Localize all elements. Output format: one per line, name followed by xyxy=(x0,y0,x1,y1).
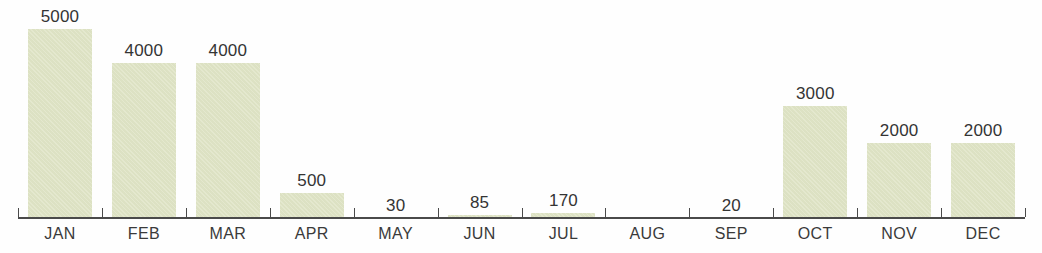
bar-value-label: 2000 xyxy=(880,122,919,139)
category-label-may: MAY xyxy=(354,224,438,250)
axis-tick xyxy=(18,208,19,217)
axis-tick xyxy=(605,208,606,217)
bar-group-feb: 4000 xyxy=(102,0,186,218)
bar-group-apr: 500 xyxy=(270,0,354,218)
category-label-apr: APR xyxy=(270,224,354,250)
category-label-jun: JUN xyxy=(438,224,522,250)
bar xyxy=(783,106,847,218)
bar-value-label: 4000 xyxy=(125,42,164,59)
category-label-dec: DEC xyxy=(941,224,1025,250)
axis-tick xyxy=(270,208,271,217)
bar-group-may: 30 xyxy=(354,0,438,218)
plot-area: 500040004000500308517020300020002000 xyxy=(18,0,1025,218)
axis-tick xyxy=(857,208,858,217)
axis-tick xyxy=(1025,208,1026,217)
bar xyxy=(951,143,1015,218)
axis-tick xyxy=(773,208,774,217)
x-axis-ticks xyxy=(18,208,1025,217)
bar-group-mar: 4000 xyxy=(186,0,270,218)
bar-group-nov: 2000 xyxy=(857,0,941,218)
bar-value-label: 170 xyxy=(549,192,578,209)
bar-chart: 500040004000500308517020300020002000 JAN… xyxy=(0,0,1042,253)
bar-value-label: 5000 xyxy=(41,8,80,25)
bar-group-sep: 20 xyxy=(689,0,773,218)
x-axis-line xyxy=(18,217,1025,219)
category-label-nov: NOV xyxy=(857,224,941,250)
bar-group-oct: 3000 xyxy=(773,0,857,218)
bar-value-label: 2000 xyxy=(964,122,1003,139)
bar xyxy=(28,29,92,218)
bar-group-jan: 5000 xyxy=(18,0,102,218)
category-label-sep: SEP xyxy=(689,224,773,250)
category-label-oct: OCT xyxy=(773,224,857,250)
category-labels: JANFEBMARAPRMAYJUNJULAUGSEPOCTNOVDEC xyxy=(18,224,1025,250)
bar-group-jun: 85 xyxy=(438,0,522,218)
axis-tick xyxy=(354,208,355,217)
bar-columns: 500040004000500308517020300020002000 xyxy=(18,0,1025,218)
bar-group-dec: 2000 xyxy=(941,0,1025,218)
bar-value-label: 500 xyxy=(297,172,326,189)
category-label-jan: JAN xyxy=(18,224,102,250)
axis-tick xyxy=(941,208,942,217)
category-label-jul: JUL xyxy=(522,224,606,250)
bar xyxy=(112,63,176,218)
bar-value-label: 3000 xyxy=(796,85,835,102)
bar-group-aug xyxy=(605,0,689,218)
axis-tick xyxy=(689,208,690,217)
category-label-mar: MAR xyxy=(186,224,270,250)
category-label-aug: AUG xyxy=(605,224,689,250)
axis-tick xyxy=(102,208,103,217)
bar-value-label: 4000 xyxy=(208,42,247,59)
bar xyxy=(196,63,260,218)
bar-group-jul: 170 xyxy=(522,0,606,218)
axis-tick xyxy=(522,208,523,217)
bar xyxy=(867,143,931,218)
axis-tick xyxy=(438,208,439,217)
axis-tick xyxy=(186,208,187,217)
category-label-feb: FEB xyxy=(102,224,186,250)
